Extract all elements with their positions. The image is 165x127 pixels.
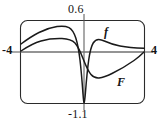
curve-label-F: F (117, 76, 125, 88)
x-max-label: 4 (151, 44, 157, 56)
x-min-label: -4 (2, 44, 12, 56)
graph-figure: 0.6 -1.1 -4 4 f F (0, 0, 165, 127)
y-max-label: 0.6 (68, 3, 84, 15)
curve-label-f: f (104, 26, 108, 38)
y-min-label: -1.1 (68, 108, 88, 120)
